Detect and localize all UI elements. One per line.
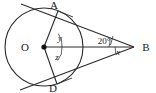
label-point-b: B bbox=[142, 41, 149, 53]
angle-separator-tick bbox=[111, 36, 114, 45]
tangent-ab-line bbox=[21, 4, 134, 47]
radius-oa-line bbox=[44, 11, 58, 47]
tangent-ab-overrun bbox=[58, 11, 73, 17]
label-angle-y: y bbox=[57, 33, 62, 43]
geometry-figure: A D O B y z 20° x bbox=[0, 0, 156, 93]
label-point-a: A bbox=[50, 0, 58, 11]
tangent-db-overrun bbox=[57, 78, 72, 84]
label-point-o: O bbox=[21, 41, 29, 53]
label-angle-z: z bbox=[54, 52, 59, 62]
center-point-dot bbox=[41, 44, 46, 49]
geometry-canvas: A D O B y z 20° x bbox=[0, 0, 156, 93]
label-point-d: D bbox=[49, 82, 57, 93]
label-angle-20-degrees: 20° bbox=[98, 36, 111, 46]
label-angle-x: x bbox=[115, 47, 120, 57]
